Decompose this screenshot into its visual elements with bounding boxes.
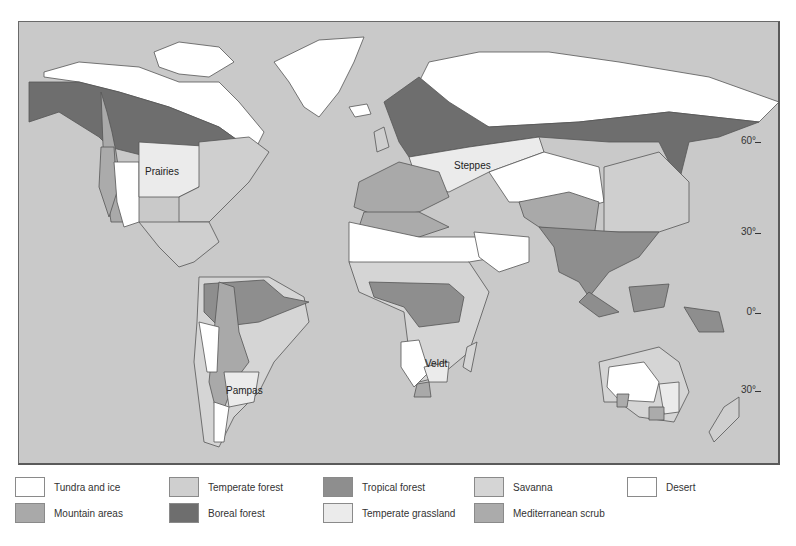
- map-graphic: [19, 22, 780, 465]
- legend-item-boreal: Boreal forest: [169, 504, 265, 522]
- swatch-boreal: [169, 503, 199, 523]
- swatch-mediterranean: [474, 503, 504, 523]
- greenland: [274, 37, 364, 117]
- region-label-veldt: Veldt: [425, 358, 447, 369]
- africa-tropical: [369, 282, 464, 327]
- legend-label: Mountain areas: [54, 508, 123, 519]
- region-label-prairies: Prairies: [145, 166, 179, 177]
- legend-item-savanna: Savanna: [474, 478, 552, 496]
- legend-label: Temperate forest: [208, 482, 283, 493]
- legend-label: Boreal forest: [208, 508, 265, 519]
- lat-label-60n: 60°: [741, 135, 756, 146]
- lat-label-30n: 30°: [741, 226, 756, 237]
- legend-item-tundra: Tundra and ice: [15, 478, 120, 496]
- region-label-steppes: Steppes: [454, 160, 491, 171]
- legend-label: Tundra and ice: [54, 482, 120, 493]
- swatch-tropical: [323, 477, 353, 497]
- legend-label: Temperate grassland: [362, 508, 455, 519]
- lat-tick-60n: [755, 142, 761, 143]
- legend-item-temperate-grassland: Temperate grassland: [323, 504, 455, 522]
- legend-label: Mediterranean scrub: [513, 508, 605, 519]
- swatch-desert: [627, 477, 657, 497]
- swatch-temperate-forest: [169, 477, 199, 497]
- map-legend: Tundra and ice Mountain areas Temperate …: [15, 478, 795, 538]
- legend-label: Desert: [666, 482, 695, 493]
- legend-item-desert: Desert: [627, 478, 695, 496]
- lat-label-0: 0°: [746, 306, 756, 317]
- legend-label: Savanna: [513, 482, 552, 493]
- swatch-mountain: [15, 503, 45, 523]
- swatch-tundra: [15, 477, 45, 497]
- lat-label-30s: 30°: [741, 384, 756, 395]
- eurasia-tundra: [419, 52, 779, 127]
- world-biome-map: Prairies Steppes Pampas Veldt 60° 30° 0°…: [18, 21, 780, 465]
- lat-tick-30n: [755, 233, 761, 234]
- region-label-pampas: Pampas: [226, 385, 263, 396]
- legend-item-tropical: Tropical forest: [323, 478, 425, 496]
- lat-tick-30s: [755, 391, 761, 392]
- legend-item-mediterranean: Mediterranean scrub: [474, 504, 605, 522]
- legend-label: Tropical forest: [362, 482, 425, 493]
- legend-item-temperate-forest: Temperate forest: [169, 478, 283, 496]
- swatch-temperate-grassland: [323, 503, 353, 523]
- swatch-savanna: [474, 477, 504, 497]
- legend-item-mountain: Mountain areas: [15, 504, 123, 522]
- lat-tick-0: [755, 313, 761, 314]
